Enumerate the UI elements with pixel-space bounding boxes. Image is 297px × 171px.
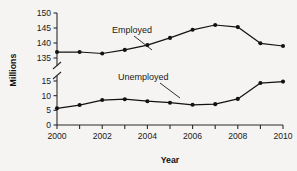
data-point-employed <box>123 48 127 52</box>
annotation-leader-unemployed <box>160 83 180 98</box>
data-point-unemployed <box>236 97 240 101</box>
y-tick-label: 135 <box>37 53 52 63</box>
x-tick-label: 2010 <box>273 131 292 141</box>
data-point-unemployed <box>213 102 217 106</box>
data-point-employed <box>213 23 217 27</box>
data-point-employed <box>258 41 262 45</box>
data-point-unemployed <box>145 99 149 103</box>
y-tick-label: 10 <box>41 91 51 101</box>
data-point-unemployed <box>55 106 59 110</box>
x-axis-title: Year <box>161 155 180 165</box>
y-tick-label: 150 <box>37 8 52 18</box>
data-point-employed <box>168 36 172 40</box>
data-point-unemployed <box>100 98 104 102</box>
x-tick-label: 2000 <box>47 131 66 141</box>
x-tick-label: 2004 <box>138 131 157 141</box>
data-point-unemployed <box>191 103 195 107</box>
y-tick-label: 5 <box>46 105 51 115</box>
y-tick-label: 15 <box>41 76 51 86</box>
data-point-employed <box>191 28 195 32</box>
data-point-employed <box>78 50 82 54</box>
data-point-unemployed <box>78 103 82 107</box>
data-point-employed <box>236 25 240 29</box>
data-point-unemployed <box>281 80 285 84</box>
y-tick-label: 140 <box>37 38 52 48</box>
x-tick-label: 2006 <box>183 131 202 141</box>
annotation-employed: Employed <box>112 25 152 35</box>
x-tick-label: 2002 <box>93 131 112 141</box>
data-point-employed <box>281 44 285 48</box>
chart-canvas: 1351401451500510152000200220042006200820… <box>0 0 297 171</box>
y-tick-label: 0 <box>46 120 51 130</box>
annotation-unemployed: Unemployed <box>118 72 169 82</box>
y-axis-title: Millions <box>8 54 18 87</box>
data-point-employed <box>100 51 104 55</box>
data-point-employed <box>55 50 59 54</box>
data-point-unemployed <box>168 101 172 105</box>
line-chart: 1351401451500510152000200220042006200820… <box>0 0 297 171</box>
data-point-unemployed <box>123 97 127 101</box>
x-tick-label: 2008 <box>228 131 247 141</box>
y-tick-label: 145 <box>37 23 52 33</box>
data-point-unemployed <box>258 81 262 85</box>
